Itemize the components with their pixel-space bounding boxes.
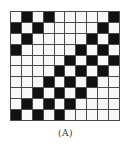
empty-cell xyxy=(98,110,108,120)
empty-cell xyxy=(98,12,108,22)
filled-cell xyxy=(44,99,54,109)
filled-cell xyxy=(109,34,119,44)
filled-cell xyxy=(22,12,32,22)
empty-cell xyxy=(76,34,86,44)
empty-cell xyxy=(55,99,65,109)
empty-cell xyxy=(22,66,32,76)
filled-cell xyxy=(98,66,108,76)
empty-cell xyxy=(11,66,21,76)
empty-cell xyxy=(22,23,32,33)
empty-cell xyxy=(87,88,97,98)
filled-cell xyxy=(76,45,86,55)
filled-cell xyxy=(11,110,21,120)
empty-cell xyxy=(76,99,86,109)
empty-cell xyxy=(44,88,54,98)
filled-cell xyxy=(11,45,21,55)
empty-cell xyxy=(22,45,32,55)
filled-cell xyxy=(76,88,86,98)
filled-cell xyxy=(22,99,32,109)
filled-cell xyxy=(11,23,21,33)
figure-caption: (A) xyxy=(0,128,131,138)
empty-cell xyxy=(44,34,54,44)
empty-cell xyxy=(33,99,43,109)
empty-cell xyxy=(65,34,75,44)
filled-cell xyxy=(55,110,65,120)
empty-cell xyxy=(65,12,75,22)
empty-cell xyxy=(76,77,86,87)
empty-cell xyxy=(44,45,54,55)
empty-cell xyxy=(98,88,108,98)
empty-cell xyxy=(76,56,86,66)
filled-cell xyxy=(65,77,75,87)
filled-cell xyxy=(87,77,97,87)
empty-cell xyxy=(98,34,108,44)
empty-cell xyxy=(109,45,119,55)
empty-cell xyxy=(98,56,108,66)
empty-cell xyxy=(44,66,54,76)
empty-cell xyxy=(33,66,43,76)
empty-cell xyxy=(11,77,21,87)
filled-cell xyxy=(44,12,54,22)
empty-cell xyxy=(11,99,21,109)
empty-cell xyxy=(33,12,43,22)
empty-cell xyxy=(76,12,86,22)
empty-cell xyxy=(33,45,43,55)
empty-cell xyxy=(65,66,75,76)
empty-cell xyxy=(109,77,119,87)
filled-cell xyxy=(98,23,108,33)
empty-cell xyxy=(55,34,65,44)
empty-cell xyxy=(55,23,65,33)
empty-cell xyxy=(65,23,75,33)
empty-cell xyxy=(76,23,86,33)
empty-cell xyxy=(44,56,54,66)
empty-cell xyxy=(22,88,32,98)
empty-cell xyxy=(109,110,119,120)
filled-cell xyxy=(44,77,54,87)
empty-cell xyxy=(22,77,32,87)
filled-cell xyxy=(109,12,119,22)
empty-cell xyxy=(109,23,119,33)
filled-cell xyxy=(76,66,86,76)
filled-cell xyxy=(65,99,75,109)
empty-cell xyxy=(109,99,119,109)
empty-cell xyxy=(87,110,97,120)
empty-cell xyxy=(55,77,65,87)
empty-cell xyxy=(44,23,54,33)
empty-cell xyxy=(65,45,75,55)
empty-cell xyxy=(87,66,97,76)
empty-cell xyxy=(98,99,108,109)
empty-cell xyxy=(11,56,21,66)
empty-cell xyxy=(55,45,65,55)
empty-cell xyxy=(65,110,75,120)
filled-cell xyxy=(98,45,108,55)
empty-cell xyxy=(33,34,43,44)
filled-cell xyxy=(22,34,32,44)
empty-cell xyxy=(109,66,119,76)
filled-cell xyxy=(55,66,65,76)
empty-cell xyxy=(44,110,54,120)
filled-cell xyxy=(55,88,65,98)
filled-cell xyxy=(33,88,43,98)
empty-cell xyxy=(87,12,97,22)
empty-cell xyxy=(11,88,21,98)
empty-cell xyxy=(33,77,43,87)
empty-cell xyxy=(22,110,32,120)
empty-cell xyxy=(65,88,75,98)
empty-cell xyxy=(87,99,97,109)
empty-cell xyxy=(87,45,97,55)
filled-cell xyxy=(33,23,43,33)
filled-cell xyxy=(87,56,97,66)
empty-cell xyxy=(55,56,65,66)
weave-pattern-grid xyxy=(10,11,120,121)
empty-cell xyxy=(33,56,43,66)
empty-cell xyxy=(11,34,21,44)
empty-cell xyxy=(98,77,108,87)
empty-cell xyxy=(87,23,97,33)
empty-cell xyxy=(55,12,65,22)
empty-cell xyxy=(76,110,86,120)
empty-cell xyxy=(109,88,119,98)
empty-cell xyxy=(22,56,32,66)
filled-cell xyxy=(87,34,97,44)
filled-cell xyxy=(33,110,43,120)
empty-cell xyxy=(11,12,21,22)
